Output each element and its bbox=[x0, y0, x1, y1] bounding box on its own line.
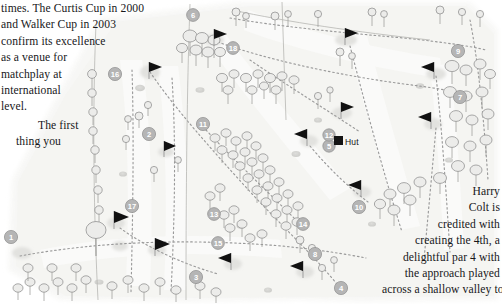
svg-text:13: 13 bbox=[210, 210, 218, 219]
text-line: international bbox=[1, 83, 129, 99]
hole-marker: 15 bbox=[212, 237, 225, 250]
hut-marker bbox=[334, 136, 343, 145]
body-text-right-column: Harry Colt is credited with creating the… bbox=[396, 184, 500, 299]
hole-marker: 5 bbox=[323, 140, 335, 152]
hole-marker: 2 bbox=[142, 127, 155, 140]
svg-text:15: 15 bbox=[214, 239, 223, 248]
text-line: delightful par 4 with bbox=[396, 250, 500, 266]
hole-marker: 10 bbox=[352, 200, 365, 213]
svg-text:18: 18 bbox=[229, 44, 237, 53]
text-line: across a shallow valley to bbox=[382, 282, 500, 298]
text-line: Colt is bbox=[396, 200, 500, 216]
text-line: creating the 4th, a bbox=[396, 233, 500, 249]
svg-text:3: 3 bbox=[194, 273, 198, 282]
hole-marker: 14 bbox=[297, 218, 310, 231]
hole-marker: 3 bbox=[189, 270, 202, 283]
hole-marker: 17 bbox=[125, 199, 138, 212]
text-line: as a venue for bbox=[1, 50, 129, 66]
svg-text:9: 9 bbox=[456, 47, 460, 56]
svg-text:10: 10 bbox=[355, 203, 363, 212]
text-line: Harry bbox=[396, 184, 500, 200]
hole-marker: 13 bbox=[208, 208, 221, 221]
hole-marker: 8 bbox=[308, 247, 321, 260]
body-text-left-column: times. The Curtis Cup in 2000 and Walker… bbox=[1, 1, 129, 151]
paragraph-two: The first thing you bbox=[1, 118, 129, 151]
text-line: level. bbox=[1, 99, 129, 115]
hole-marker: 1 bbox=[4, 230, 17, 243]
text-line: matchplay at bbox=[1, 67, 129, 83]
svg-text:12: 12 bbox=[325, 131, 333, 140]
svg-text:2: 2 bbox=[147, 130, 151, 139]
text-line: credited with bbox=[396, 217, 500, 233]
hole-marker: 18 bbox=[227, 42, 240, 55]
text-line: times. The Curtis Cup in 2000 bbox=[1, 1, 129, 17]
svg-text:14: 14 bbox=[299, 220, 308, 229]
svg-text:6: 6 bbox=[191, 11, 195, 20]
book-page: 1 2 3 4 5 6 7 8 9 10 11 12 13 14 15 16 1… bbox=[0, 0, 502, 304]
hole-marker: 11 bbox=[196, 117, 209, 130]
svg-text:7: 7 bbox=[458, 93, 462, 102]
hut-label: Hut bbox=[345, 137, 359, 147]
hole-marker: 12 bbox=[323, 129, 335, 141]
paragraph-right: Harry Colt is credited with creating the… bbox=[396, 184, 500, 299]
text-line: and Walker Cup in 2003 bbox=[1, 17, 129, 33]
paragraph-one: times. The Curtis Cup in 2000 and Walker… bbox=[1, 1, 129, 116]
text-line: thing you bbox=[1, 134, 129, 150]
svg-text:8: 8 bbox=[313, 250, 317, 259]
hole-marker: 4 bbox=[334, 281, 347, 294]
svg-text:17: 17 bbox=[128, 202, 136, 211]
hole-marker: 6 bbox=[187, 9, 200, 22]
text-line: the approach played bbox=[396, 266, 500, 282]
hole-marker: 9 bbox=[451, 44, 464, 57]
text-line: The first bbox=[1, 118, 129, 134]
svg-text:11: 11 bbox=[199, 120, 208, 129]
text-line: confirm its excellence bbox=[1, 34, 129, 50]
hole-marker: 7 bbox=[453, 90, 466, 103]
